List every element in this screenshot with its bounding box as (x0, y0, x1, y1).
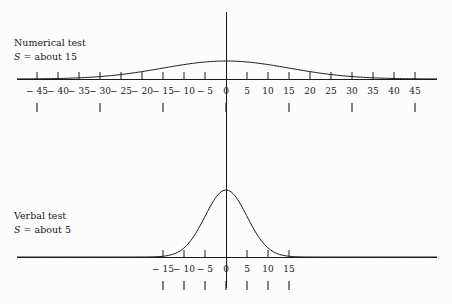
numerical-tick-label--25: − 25 (110, 87, 132, 96)
numerical-tick-label-25: 25 (325, 87, 336, 96)
verbal-tick-label-0: 0 (223, 265, 229, 274)
verbal-test-title: Verbal test (14, 209, 71, 223)
numerical-tick-label--30: − 30 (89, 87, 111, 96)
numerical-tick-label--45: − 45 (26, 87, 48, 96)
numerical-tick-label-45: 45 (409, 87, 420, 96)
numerical-test-spread: S = about 15 (14, 50, 86, 64)
verbal-tick-label-15: 15 (283, 265, 294, 274)
verbal-tick-label-5: 5 (244, 265, 250, 274)
verbal-tick-label-10: 10 (262, 265, 273, 274)
numerical-tick-label--5: − 5 (197, 87, 213, 96)
verbal-tick-label--5: − 5 (197, 265, 213, 274)
numerical-tick-label-5: 5 (244, 87, 250, 96)
numerical-tick-label--10: − 10 (173, 87, 195, 96)
verbal-sd-value: = about 5 (21, 224, 71, 235)
verbal-tick-label--10: − 10 (173, 265, 195, 274)
numerical-tick-label--35: − 35 (68, 87, 90, 96)
numerical-tick-label-10: 10 (262, 87, 273, 96)
numerical-tick-label-40: 40 (388, 87, 399, 96)
verbal-tick-label--15: − 15 (152, 265, 174, 274)
numerical-tick-label-0: 0 (223, 87, 229, 96)
verbal-test-caption: Verbal test S = about 5 (14, 209, 71, 236)
numerical-test-title: Numerical test (14, 36, 86, 50)
numerical-tick-label--40: − 40 (47, 87, 69, 96)
numerical-sd-value: = about 15 (21, 51, 78, 62)
verbal-test-spread: S = about 5 (14, 223, 71, 237)
numerical-tick-label-15: 15 (283, 87, 294, 96)
numerical-tick-label-30: 30 (346, 87, 357, 96)
numerical-tick-label--15: − 15 (152, 87, 174, 96)
numerical-tick-label--20: − 20 (131, 87, 153, 96)
numerical-tick-label-20: 20 (304, 87, 315, 96)
distribution-comparison-figure: Numerical test S = about 15 Verbal test … (0, 0, 452, 304)
numerical-test-caption: Numerical test S = about 15 (14, 36, 86, 63)
numerical-tick-label-35: 35 (367, 87, 378, 96)
